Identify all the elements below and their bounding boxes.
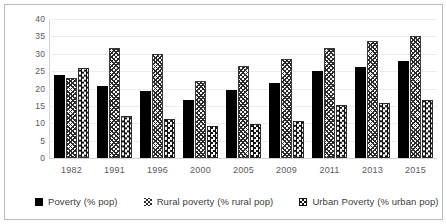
plot-area [49, 19, 437, 159]
bar[interactable] [152, 54, 163, 158]
legend-item[interactable]: Poverty (% pop) [35, 196, 118, 207]
y-axis-tick-labels: 0510152025303540 [23, 19, 45, 165]
bar[interactable] [121, 116, 132, 158]
bar[interactable] [410, 36, 421, 158]
bar[interactable] [367, 41, 378, 158]
x-tick-label: 2000 [179, 165, 222, 175]
bar-group [179, 19, 222, 158]
bar[interactable] [97, 86, 108, 158]
bar[interactable] [54, 75, 65, 158]
bar[interactable] [238, 66, 249, 158]
bar[interactable] [78, 68, 89, 158]
x-axis-tick-labels: 198219911996200020052009201120132015 [50, 165, 437, 175]
bar-group [136, 19, 179, 158]
bar-group [265, 19, 308, 158]
bar-group [50, 19, 93, 158]
bar[interactable] [281, 59, 292, 158]
plot-wrapper: 0510152025303540 [23, 19, 437, 165]
bar[interactable] [226, 90, 237, 158]
bar[interactable] [422, 100, 433, 158]
y-tick-label: 25 [23, 67, 45, 76]
x-tick-label: 2011 [308, 165, 351, 175]
y-tick-label: 40 [23, 15, 45, 24]
legend-label: Poverty (% pop) [48, 196, 118, 207]
y-tick-label: 10 [23, 119, 45, 128]
x-tick-label: 1996 [136, 165, 179, 175]
bar-group [222, 19, 265, 158]
bar[interactable] [336, 105, 347, 158]
x-tick-label: 2005 [222, 165, 265, 175]
chart-legend: Poverty (% pop)Rural poverty (% rural po… [35, 196, 439, 207]
bar[interactable] [293, 121, 304, 158]
bar-group [93, 19, 136, 158]
bar[interactable] [183, 100, 194, 158]
bar-group [394, 19, 437, 158]
x-tick-label: 2013 [351, 165, 394, 175]
bar[interactable] [140, 91, 151, 158]
bar[interactable] [379, 103, 390, 158]
y-tick-label: 20 [23, 84, 45, 93]
legend-label: Urban Poverty (% urban pop) [312, 196, 438, 207]
y-tick-label: 5 [23, 136, 45, 145]
x-tick-label: 2015 [394, 165, 437, 175]
legend-swatch-icon [35, 198, 43, 206]
bar[interactable] [312, 71, 323, 158]
bar[interactable] [250, 124, 261, 158]
legend-item[interactable]: Rural poverty (% rural pop) [144, 196, 274, 207]
y-tick-label: 30 [23, 50, 45, 59]
y-tick-label: 35 [23, 32, 45, 41]
chart-screenshot: 0510152025303540 19821991199620002005200… [0, 0, 447, 224]
bar[interactable] [355, 67, 366, 158]
bar-groups [50, 19, 437, 158]
bar[interactable] [66, 78, 77, 158]
legend-swatch-icon [299, 198, 307, 206]
bar-group [308, 19, 351, 158]
bar[interactable] [398, 61, 409, 158]
bar[interactable] [207, 126, 218, 158]
bar[interactable] [324, 48, 335, 159]
bar[interactable] [164, 119, 175, 158]
bar-group [351, 19, 394, 158]
bar[interactable] [109, 48, 120, 159]
bar[interactable] [269, 83, 280, 158]
x-tick-label: 2009 [265, 165, 308, 175]
chart-frame: 0510152025303540 19821991199620002005200… [4, 4, 443, 220]
y-tick-label: 0 [23, 154, 45, 163]
bar[interactable] [195, 81, 206, 158]
legend-item[interactable]: Urban Poverty (% urban pop) [299, 196, 438, 207]
legend-label: Rural poverty (% rural pop) [157, 196, 274, 207]
x-tick-label: 1982 [50, 165, 93, 175]
y-tick-label: 15 [23, 102, 45, 111]
legend-swatch-icon [144, 198, 152, 206]
x-tick-label: 1991 [93, 165, 136, 175]
